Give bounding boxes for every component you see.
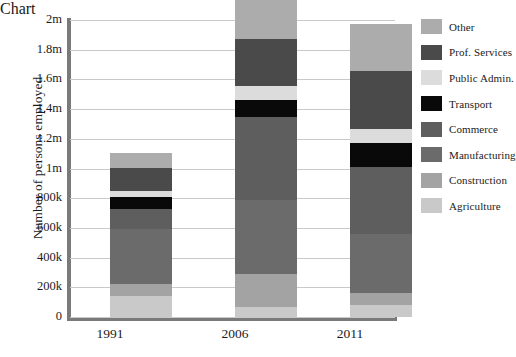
gridline [70,20,395,21]
bar-segment-construction [350,293,412,305]
stacked-bar-chart: Number of persons employed 0200k400k600k… [0,0,516,357]
legend-item-transport[interactable]: Transport [421,91,516,117]
x-tick-label: 2006 [190,326,280,342]
y-tick-label: 1m [2,161,62,176]
legend-swatch-icon [421,45,442,60]
y-tick-label: 1.2m [2,131,62,146]
legend-item-prof-services[interactable]: Prof. Services [421,40,516,66]
legend-label: Construction [449,174,507,186]
legend-item-agriculture[interactable]: Agriculture [421,193,516,219]
legend-swatch-icon [421,96,442,111]
legend-item-manufacturing[interactable]: Manufacturing [421,142,516,168]
gridline [70,317,395,318]
y-tick-label: 1.4m [2,101,62,116]
legend-item-other[interactable]: Other [421,14,516,40]
y-tick-label: 200k [2,279,62,294]
y-tick-label: 600k [2,220,62,235]
plot-area [70,20,395,317]
y-tick-label: 400k [2,250,62,265]
bar-segment-other [350,24,412,72]
x-tick-label: 1991 [65,326,155,342]
bar-segment-prof-services [110,168,172,191]
bar-segment-public-admin [350,129,412,143]
legend-item-commerce[interactable]: Commerce [421,116,516,142]
bar-segment-agriculture [350,305,412,317]
bar-segment-public-admin [110,191,172,198]
bar-segment-construction [110,284,172,296]
bar-segment-construction [235,274,297,307]
bar-segment-manufacturing [235,200,297,274]
bar-segment-transport [350,143,412,167]
bar-segment-commerce [350,167,412,234]
bar-segment-commerce [235,117,297,200]
legend-swatch-icon [421,19,442,34]
legend-label: Prof. Services [449,46,512,58]
bar-segment-agriculture [110,296,172,317]
legend-swatch-icon [421,147,442,162]
gridline [70,139,395,140]
bar-segment-prof-services [350,71,412,129]
legend-swatch-icon [421,173,442,188]
y-tick-label: 0 [2,309,62,324]
y-tick-label: 1.8m [2,42,62,57]
legend-label: Transport [449,98,492,110]
bar-segment-other [110,153,172,168]
bar-segment-prof-services [235,39,297,87]
legend-swatch-icon [421,122,442,137]
bar-segment-manufacturing [110,229,172,285]
gridline [70,50,395,51]
bar-segment-commerce [110,209,172,229]
y-tick-label: 1.6m [2,71,62,86]
legend-label: Public Admin. [449,72,514,84]
bar-segment-public-admin [235,86,297,100]
legend-label: Manufacturing [449,149,516,161]
legend-label: Commerce [449,123,498,135]
legend: OtherProf. ServicesPublic Admin.Transpor… [421,14,516,219]
bar-segment-transport [235,100,297,116]
y-tick-label: 2m [2,12,62,27]
gridline [70,79,395,80]
bar-segment-agriculture [235,307,297,317]
legend-label: Other [449,21,475,33]
legend-item-public-admin[interactable]: Public Admin. [421,65,516,91]
legend-swatch-icon [421,198,442,213]
x-tick-label: 2011 [305,326,395,342]
legend-item-construction[interactable]: Construction [421,168,516,194]
bar-segment-other [235,0,297,39]
y-tick-label: 800k [2,190,62,205]
bar-segment-manufacturing [350,234,412,293]
bar-segment-transport [110,197,172,208]
gridline [70,109,395,110]
legend-swatch-icon [421,70,442,85]
legend-label: Agriculture [449,200,501,212]
